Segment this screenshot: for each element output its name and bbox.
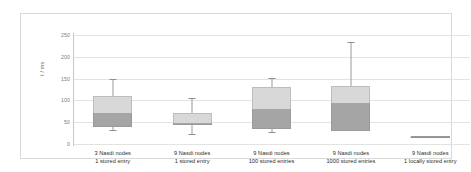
y-axis-tick-label: 150 <box>61 76 70 82</box>
whisker-lower <box>192 125 193 134</box>
x-axis-category-label: 9 Nasdi nodes1 stored entry <box>152 150 231 165</box>
x-axis-category-label: 9 Nasdi nodes1000 stored entries <box>311 150 390 165</box>
whisker-cap-lower <box>268 132 275 133</box>
category-label-line: 100 stored entries <box>232 158 311 166</box>
box-lower-quartile <box>93 113 132 126</box>
y-axis-tick-label: 0 <box>67 141 70 147</box>
box-plot <box>252 35 291 144</box>
box-upper-quartile <box>252 87 291 109</box>
y-axis-tick-label: 250 <box>61 32 70 38</box>
chart-frame: 250200150100500 t / ms 3 Nasdi nodes1 st… <box>20 13 452 159</box>
y-axis-tick-label: 50 <box>64 119 70 125</box>
whisker-cap-upper <box>268 78 275 79</box>
whisker-cap-lower <box>109 130 116 131</box>
x-axis-category-label: 3 Nasdi nodes1 stored entry <box>73 150 152 165</box>
x-axis-category-label: 9 Nasdi nodes1 locally stored entry <box>391 150 470 165</box>
category-label-line: 1 stored entry <box>152 158 231 166</box>
category-label-line: 1 stored entry <box>73 158 152 166</box>
whisker-cap-lower <box>189 134 196 135</box>
box-plot <box>173 35 212 144</box>
box-plot <box>93 35 132 144</box>
whisker-upper <box>271 78 272 87</box>
category-label-line: 1 locally stored entry <box>391 158 470 166</box>
whisker-cap-upper <box>189 98 196 99</box>
whisker-upper <box>112 79 113 96</box>
box-upper-quartile <box>331 86 370 103</box>
whisker-cap-collapsed <box>411 137 450 138</box>
box-upper-quartile <box>173 113 212 123</box>
x-axis-category-label: 9 Nasdi nodes100 stored entries <box>232 150 311 165</box>
plot-area <box>73 35 470 144</box>
x-axis-category-labels: 3 Nasdi nodes1 stored entry9 Nasdi nodes… <box>73 150 470 172</box>
box-lower-quartile <box>331 103 370 131</box>
box-plot <box>411 35 450 144</box>
whisker-upper <box>192 98 193 112</box>
box-plot <box>331 35 370 144</box>
category-label-line: 9 Nasdi nodes <box>311 150 390 158</box>
category-label-line: 3 Nasdi nodes <box>73 150 152 158</box>
y-axis-tick-labels: 250200150100500 <box>47 35 70 144</box>
category-label-line: 9 Nasdi nodes <box>391 150 470 158</box>
y-axis-tick-label: 200 <box>61 54 70 60</box>
gridline <box>73 144 470 145</box>
whisker-cap-upper <box>109 79 116 80</box>
category-label-line: 9 Nasdi nodes <box>232 150 311 158</box>
category-label-line: 9 Nasdi nodes <box>152 150 231 158</box>
y-axis-title: t / ms <box>39 62 45 76</box>
box-lower-quartile <box>252 109 291 129</box>
box-lower-quartile <box>173 123 212 125</box>
y-axis-line <box>73 33 74 146</box>
category-label-line: 1000 stored entries <box>311 158 390 166</box>
y-axis-tick-label: 100 <box>61 97 70 103</box>
whisker-upper <box>350 42 351 86</box>
whisker-cap-upper <box>347 42 354 43</box>
box-upper-quartile <box>93 96 132 113</box>
